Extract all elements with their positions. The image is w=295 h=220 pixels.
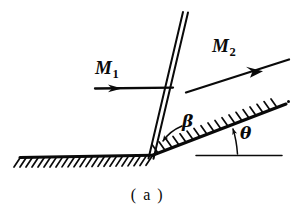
outgoing-flow-shaft [186, 60, 289, 93]
m1-subscript: 1 [113, 67, 119, 81]
m2-subscript: 2 [230, 45, 236, 59]
figure-caption: ( a ) [0, 186, 295, 204]
m1-base: M [95, 57, 112, 78]
beta-angle-label: β [182, 113, 193, 130]
outgoing-flow-arrow [186, 60, 289, 93]
incoming-flow-shaft [95, 88, 173, 89]
theta-angle-pointer [233, 129, 238, 154]
wedge-surface [152, 99, 290, 155]
m2-base: M [212, 35, 229, 56]
figure-oblique-shock-diagram: M1 M2 β θ ( a ) [0, 0, 295, 220]
wedge-tip-dot [287, 100, 290, 103]
theta-angle-indicator [233, 129, 238, 154]
upstream-mach-number-label: M1 [95, 58, 119, 81]
wedge-surface-hatching [152, 99, 277, 153]
theta-angle-label: θ [240, 125, 251, 142]
downstream-mach-number-label: M2 [212, 36, 236, 59]
horizontal-wall [14, 155, 152, 167]
incoming-flow-arrow [95, 85, 173, 93]
